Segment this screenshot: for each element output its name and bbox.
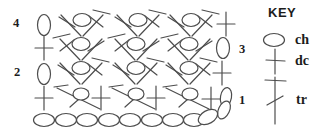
ch-h-symbol-foundation-chain xyxy=(56,114,77,127)
ch-h-symbol-foundation-chain xyxy=(77,114,98,127)
crochet-stitch-chart: 4 3 2 1 KEY ch dc tr xyxy=(0,0,333,131)
ch-v-symbol-row-3 xyxy=(217,38,230,59)
row-number-4: 4 xyxy=(13,17,19,30)
fan-symbol-row-4 xyxy=(59,10,110,36)
dc-key-symbol-key-dc xyxy=(266,49,285,74)
ch-v-symbol-row-4 xyxy=(38,15,51,36)
row-number-2: 2 xyxy=(14,66,20,79)
ch-h-symbol-foundation-chain xyxy=(142,114,163,127)
fan-symbol-row-2 xyxy=(166,58,217,84)
key-title: KEY xyxy=(268,6,296,19)
ch-v-symbol-row-2 xyxy=(38,64,51,85)
tr-key-symbol-key-tr xyxy=(265,77,286,124)
dc-symbol-row-4 xyxy=(217,12,235,36)
fan-symbol-row-2 xyxy=(58,58,109,84)
key-label-dc: dc xyxy=(295,54,309,68)
xtr-symbol-row-1 xyxy=(109,85,155,109)
fan-symbol-row-2 xyxy=(113,58,164,84)
ch-h-symbol-foundation-chain xyxy=(120,114,141,127)
row-number-3: 3 xyxy=(239,43,245,56)
ch-h-symbol-foundation-chain xyxy=(34,114,55,127)
ch-h-symbol-key-ch xyxy=(264,34,285,47)
fan-symbol-row-3 xyxy=(108,34,159,60)
fan-symbol-row-3 xyxy=(53,34,104,60)
ch-h-symbol-foundation-chain xyxy=(163,114,184,127)
xtr-symbol-row-1 xyxy=(163,85,209,109)
dc-symbol-row-1 xyxy=(35,86,53,110)
fan-symbol-row-4 xyxy=(168,10,219,36)
fan-symbol-row-4 xyxy=(115,10,166,36)
key-label-ch: ch xyxy=(295,33,309,47)
fan-symbol-row-3 xyxy=(161,34,212,60)
dc-symbol-row-2 xyxy=(213,61,231,85)
key-label-tr: tr xyxy=(296,93,307,107)
row-number-1: 1 xyxy=(239,94,245,107)
ch-h-symbol-foundation-chain xyxy=(99,114,120,127)
xtr-symbol-row-1 xyxy=(54,85,100,109)
dc-symbol-row-3 xyxy=(35,36,53,60)
